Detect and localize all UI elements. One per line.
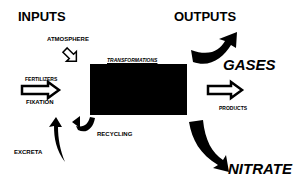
inputs-heading: INPUTS (18, 10, 66, 23)
nitrate-arrow-icon (189, 120, 229, 172)
fertilizers-arrow-icon (22, 82, 59, 98)
recycling-arrow-icon (72, 116, 95, 131)
excreta-label: EXCRETA (14, 149, 42, 155)
nitrate-label: NITRATE (228, 161, 292, 176)
products-arrow-icon (208, 82, 242, 98)
diagram-canvas (0, 0, 293, 184)
atmosphere-label: ATMOSPHERE (47, 36, 89, 42)
fixation-label: FIXATION (26, 99, 54, 105)
gases-label: GASES (223, 57, 276, 72)
transformations-title: TRANSFORMATIONS (107, 58, 157, 63)
transformations-box (90, 64, 187, 115)
outputs-heading: OUTPUTS (174, 10, 236, 23)
atmosphere-arrow-icon (60, 45, 81, 66)
excreta-arrow-icon (49, 117, 65, 162)
recycling-label: RECYCLING (97, 131, 132, 137)
fertilizers-label: FERTILIZERS (25, 77, 57, 82)
products-label: PRODUCTS (219, 106, 247, 111)
